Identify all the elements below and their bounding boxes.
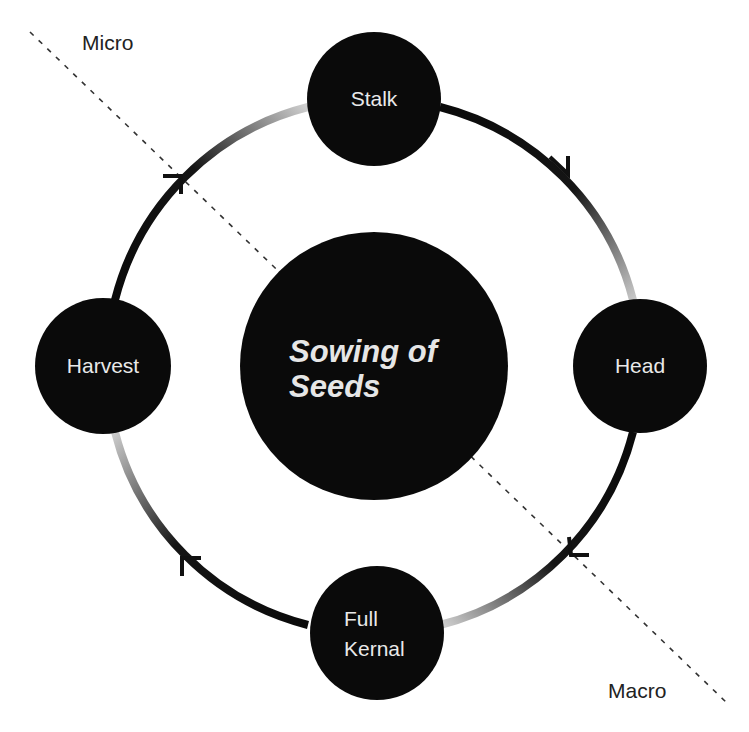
arc-stalk-to-head	[440, 107, 633, 300]
cycle-diagram: Sowing of Seeds Stalk Head Full Kernal H…	[0, 0, 749, 732]
zone-label-micro: Micro	[82, 31, 133, 54]
arc-full-kernal-to-harvest	[115, 432, 308, 625]
arc-head-to-full-kernal	[440, 432, 633, 625]
center-label-line2: Seeds	[289, 369, 380, 404]
center-label-line1: Sowing of	[289, 334, 440, 369]
node-harvest: Harvest	[35, 298, 171, 434]
zone-label-macro: Macro	[608, 679, 666, 702]
node-stalk-label: Stalk	[351, 87, 398, 110]
node-harvest-label: Harvest	[67, 354, 140, 377]
node-full-kernal-label-line1: Full	[344, 607, 378, 630]
node-stalk: Stalk	[307, 32, 441, 166]
node-full-kernal-label-line2: Kernal	[344, 637, 405, 660]
node-full-kernal: Full Kernal	[310, 566, 444, 700]
arc-harvest-to-stalk	[115, 107, 308, 300]
center-node: Sowing of Seeds	[240, 232, 508, 500]
node-head: Head	[573, 299, 707, 433]
node-head-label: Head	[615, 354, 665, 377]
